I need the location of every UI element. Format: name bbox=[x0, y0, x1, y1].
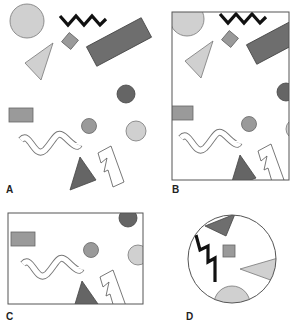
panel-d: D bbox=[186, 214, 278, 322]
shape-light-triangle bbox=[240, 258, 278, 282]
shape-half-circle bbox=[214, 286, 250, 322]
panel-a: A bbox=[6, 4, 152, 195]
panel-label-c: C bbox=[6, 311, 13, 322]
scene-crop-b bbox=[169, 2, 297, 188]
panel-label-b: B bbox=[172, 184, 179, 195]
frame-c bbox=[8, 213, 143, 304]
scene-full bbox=[9, 4, 152, 190]
shape-small-square bbox=[223, 245, 235, 257]
scene-crop-c bbox=[11, 128, 154, 314]
panel-b: B bbox=[169, 2, 297, 195]
panel-label-d: D bbox=[186, 311, 193, 322]
panel-label-a: A bbox=[6, 184, 13, 195]
figure-canvas: A B C D bbox=[0, 0, 297, 329]
shape-dark-triangle bbox=[205, 214, 235, 236]
shape-zigzag bbox=[196, 235, 215, 282]
